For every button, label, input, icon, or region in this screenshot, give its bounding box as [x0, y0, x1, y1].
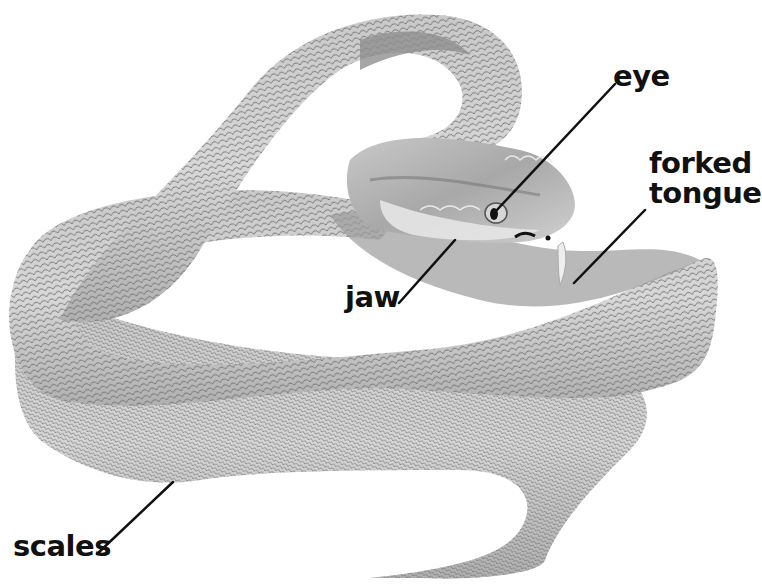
label-scales: scales — [13, 532, 111, 561]
nostril — [546, 236, 551, 241]
label-tongue: tongue — [649, 178, 762, 208]
label-jaw: jaw — [345, 283, 400, 312]
label-forked: forked — [649, 148, 762, 178]
label-forked-tongue: forked tongue — [649, 148, 762, 208]
label-eye: eye — [613, 62, 670, 91]
